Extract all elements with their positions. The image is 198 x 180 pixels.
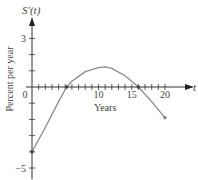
data-point	[163, 116, 167, 120]
x-tick-label: 10	[94, 89, 104, 100]
x-axis-label: Years	[94, 102, 116, 113]
chart: 01015203−5S′(t)tYearsPercent per year	[0, 0, 198, 180]
x-tick-label: 15	[127, 89, 137, 100]
y-axis-arrow-icon	[29, 17, 35, 26]
y-tick-label: −5	[15, 163, 26, 174]
data-point	[30, 150, 34, 154]
x-tick-label: 0	[23, 89, 28, 100]
x-tick-label: 20	[160, 89, 170, 100]
data-point	[65, 85, 69, 89]
data-point	[137, 85, 141, 89]
y-axis-name: S′(t)	[22, 4, 41, 17]
y-axis-label: Percent per year	[4, 46, 15, 112]
y-tick-label: 3	[21, 33, 26, 44]
x-axis-name: t	[193, 81, 197, 93]
